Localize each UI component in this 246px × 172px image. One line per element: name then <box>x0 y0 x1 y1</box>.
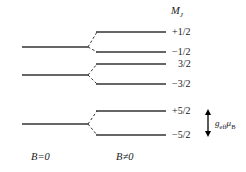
energy-level-diagram: MJ +1/2 −1/2 3/2 −3/2 +5/2 −5/2 geffμB B… <box>0 0 246 172</box>
mj-symbol: M <box>171 5 180 16</box>
diagram-canvas <box>0 0 246 172</box>
branch-dashed-up-group-2 <box>88 64 97 75</box>
branch-dashed-up-group-3 <box>88 111 97 124</box>
g-subscript: eff <box>220 123 227 130</box>
branch-dashed-up-group-1 <box>88 32 97 47</box>
mj-value-minus-three-half: −3/2 <box>172 79 190 89</box>
mj-value-plus-one-half: +1/2 <box>172 27 190 37</box>
branch-dashed-down-group-1 <box>88 47 97 52</box>
mj-subscript: J <box>180 11 183 19</box>
mj-column-header: MJ <box>171 6 183 20</box>
mj-value-plus-five-half: +5/2 <box>172 106 190 116</box>
mj-value-plus-three-half: 3/2 <box>178 59 191 69</box>
splitting-energy-arrow <box>205 109 211 137</box>
mj-value-minus-five-half: −5/2 <box>172 130 190 140</box>
mu-subscript: B <box>231 123 235 130</box>
axis-label-zero-field: B=0 <box>31 152 50 162</box>
mj-value-minus-one-half: −1/2 <box>172 47 190 57</box>
branch-dashed-down-group-3 <box>88 124 97 135</box>
branch-dashed-down-group-2 <box>88 75 97 84</box>
splitting-energy-label: geffμB <box>215 118 235 132</box>
axis-label-nonzero-field: B≠0 <box>116 152 133 162</box>
